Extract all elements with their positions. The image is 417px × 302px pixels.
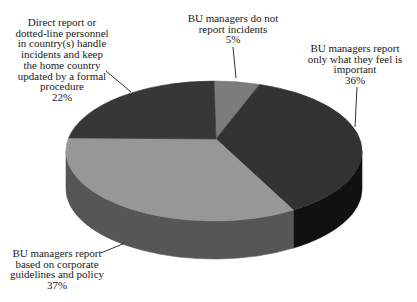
callout-label-guidelines-37pct: BU managers report based on corporate gu… (0, 248, 114, 291)
callout-label-direct-report-22pct: Direct report or dotted-line personnel i… (0, 17, 124, 103)
leader-line-5pct (233, 47, 236, 78)
callout-label-feel-important-36pct: BU managers report only what they feel i… (293, 43, 417, 86)
pie-chart-figure: Direct report or dotted-line personnel i… (0, 0, 417, 302)
leader-line-36pct (355, 87, 357, 127)
callout-label-do-not-report-5pct: BU managers do not report incidents 5% (171, 13, 295, 45)
